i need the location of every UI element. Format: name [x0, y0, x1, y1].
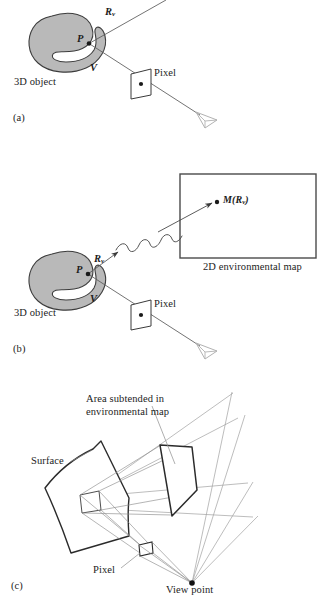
label-area-subtended-line1: Area subtended in — [86, 393, 164, 405]
label-point-p-a: P — [77, 33, 84, 45]
label-view-point-c: View point — [166, 584, 213, 596]
label-3d-object-b: 3D object — [14, 307, 56, 319]
panel-letter-a: (a) — [13, 112, 25, 124]
label-pixel-a: Pixel — [154, 67, 176, 79]
label-view-vector-b: V — [90, 293, 97, 305]
pixel-center-dot-b — [139, 313, 143, 317]
panel-a-artwork — [29, 0, 217, 128]
label-point-p-b: P — [76, 264, 83, 276]
label-reflection-vector-b: Rv — [94, 253, 104, 265]
environmental-map-rect-b — [180, 174, 316, 258]
label-pixel-b: Pixel — [154, 298, 176, 310]
pixel-center-dot-a — [139, 82, 143, 86]
label-view-vector-a: V — [90, 62, 97, 74]
figure-environment-mapping: Rv P V Pixel 3D object (a) M(Rv) 2D envi… — [0, 0, 322, 597]
projection-rays-c — [192, 392, 258, 583]
map-area-quad-c — [160, 445, 197, 516]
label-3d-object-a: 3D object — [14, 76, 56, 88]
wave-squiggle-b — [116, 235, 182, 252]
surface-point-dot-b — [86, 272, 91, 277]
label-area-subtended-line2: environmental map — [86, 406, 169, 418]
panel-c-artwork — [45, 392, 258, 586]
panel-letter-c: (c) — [11, 580, 23, 592]
pixel-label-leader-c — [121, 553, 140, 568]
label-pixel-c: Pixel — [93, 564, 115, 576]
map-sample-dot-b — [215, 200, 219, 204]
surface-point-dot-a — [87, 41, 92, 46]
label-reflection-vector-a: Rv — [105, 6, 115, 18]
reflection-ray-a — [89, 0, 166, 44]
label-environmental-map-caption-b: 2D environmental map — [203, 261, 302, 273]
panel-letter-b: (b) — [13, 343, 26, 355]
label-surface-c: Surface — [31, 455, 64, 467]
label-map-sample-b: M(Rv) — [223, 194, 249, 206]
